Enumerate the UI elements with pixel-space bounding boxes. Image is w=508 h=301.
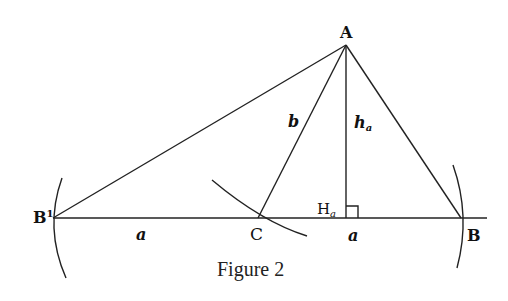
label-c: C <box>250 224 263 244</box>
label-b1: B1 <box>33 208 54 227</box>
figure-caption: Figure 2 <box>217 258 284 281</box>
label-a: A <box>339 23 353 42</box>
triangle-construction-diagram: A B1 C Ha B b ha a a Figure 2 <box>0 0 508 301</box>
label-ha-foot-main: H <box>317 200 330 218</box>
right-angle-marker <box>346 206 358 218</box>
label-b1-main: B <box>33 208 47 227</box>
label-height-ha-subscript: a <box>366 122 372 133</box>
label-ha-foot: Ha <box>317 200 336 219</box>
label-b1-superscript: 1 <box>47 208 54 219</box>
label-side-b: b <box>288 112 299 131</box>
label-b: B <box>467 226 481 245</box>
arc-left-b1 <box>54 178 66 278</box>
arc-right-b <box>453 165 463 268</box>
label-ha-foot-subscript: a <box>330 208 336 219</box>
label-segment-a-right: a <box>348 226 358 245</box>
label-segment-a-left: a <box>136 225 146 244</box>
label-height-ha-main: h <box>354 113 366 132</box>
label-height-ha: ha <box>354 113 372 133</box>
